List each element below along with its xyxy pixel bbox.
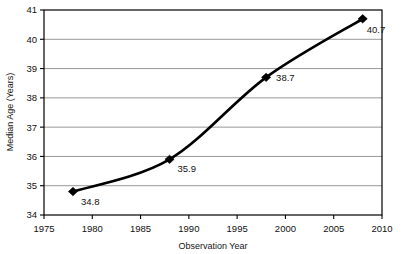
y-axis-ticks-group: 3435363738394041 (26, 4, 44, 220)
x-axis-title: Observation Year (178, 241, 247, 251)
chart-container: 3435363738394041 19751980198519901995200… (0, 0, 409, 254)
x-tick-label-1975: 1975 (33, 223, 54, 234)
data-point-label-1998: 38.7 (276, 72, 295, 83)
y-tick-label-36: 36 (26, 151, 37, 162)
data-point-label-2008: 40.7 (367, 24, 386, 35)
x-tick-label-1995: 1995 (227, 223, 248, 234)
y-tick-label-37: 37 (26, 122, 37, 133)
y-tick-label-35: 35 (26, 180, 37, 191)
x-tick-label-2000: 2000 (275, 223, 296, 234)
x-tick-label-2005: 2005 (323, 223, 344, 234)
data-point-label-1988: 35.9 (178, 163, 197, 174)
plot-area-background (44, 10, 382, 215)
y-tick-label-38: 38 (26, 92, 37, 103)
y-tick-label-39: 39 (26, 63, 37, 74)
x-tick-label-1990: 1990 (178, 223, 199, 234)
x-axis-ticks-group: 19751980198519901995200020052010 (33, 215, 392, 234)
x-tick-label-1985: 1985 (130, 223, 151, 234)
y-tick-label-41: 41 (26, 4, 37, 15)
y-tick-label-40: 40 (26, 34, 37, 45)
y-axis-title: Median Age (Years) (5, 73, 15, 152)
x-tick-label-2010: 2010 (371, 223, 392, 234)
data-point-label-1978: 34.8 (81, 196, 100, 207)
x-tick-label-1980: 1980 (82, 223, 103, 234)
median-age-line-chart: 3435363738394041 19751980198519901995200… (0, 0, 409, 254)
y-tick-label-34: 34 (26, 209, 37, 220)
